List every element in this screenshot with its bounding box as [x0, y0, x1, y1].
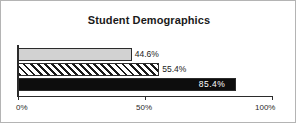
chart-title: Student Demographics [1, 14, 296, 26]
x-axis-tick-50 [145, 96, 146, 100]
x-axis-tick-100 [272, 96, 273, 100]
plot-area: 0% 50% 100% 44.6% 55.4% 85.4% [17, 45, 273, 101]
bar-value-label: 55.4% [162, 64, 186, 74]
x-axis-label-0: 0% [16, 103, 28, 112]
bar-value-label: 85.4% [199, 79, 226, 89]
x-axis-label-100: 100% [255, 103, 275, 112]
bar-value-label: 44.6% [135, 49, 159, 59]
x-axis-label-50: 50% [136, 103, 152, 112]
bar-row[interactable] [18, 48, 132, 61]
bar-row[interactable] [18, 63, 159, 76]
chart-frame: Student Demographics 0% 50% 100% 44.6% 5… [0, 0, 296, 123]
x-axis-tick-0 [18, 96, 19, 100]
